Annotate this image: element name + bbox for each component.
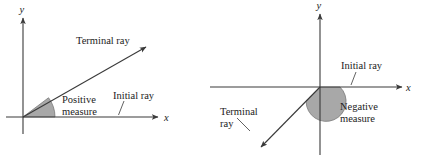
terminal-ray-label-line2: ray [220, 118, 234, 129]
negative-measure-label-line2: measure [340, 113, 375, 124]
terminal-ray-label: Terminal ray [76, 35, 131, 46]
positive-measure-label-line2: measure [62, 106, 97, 117]
negative-measure-label-line1: Negative [340, 101, 378, 112]
initial-ray-leader [351, 72, 356, 85]
initial-ray-label: Initial ray [341, 60, 383, 71]
initial-ray-leader [119, 101, 125, 115]
diagram-positive-angle: x y Terminal ray Positive measure Initia… [0, 0, 210, 159]
terminal-ray-label-line1: Terminal [220, 106, 258, 117]
x-axis-label: x [405, 82, 411, 93]
x-axis-label: x [163, 112, 169, 123]
positive-measure-label-line1: Positive [62, 94, 96, 105]
angle-figure: x y Terminal ray Positive measure Initia… [0, 0, 421, 159]
y-axis-label: y [19, 4, 25, 15]
terminal-ray [261, 87, 320, 147]
y-axis-label: y [316, 0, 322, 11]
initial-ray-label: Initial ray [113, 90, 155, 101]
diagram-negative-angle: x y Initial ray Negative measure Termina… [210, 0, 421, 159]
terminal-ray-leader [237, 118, 250, 131]
